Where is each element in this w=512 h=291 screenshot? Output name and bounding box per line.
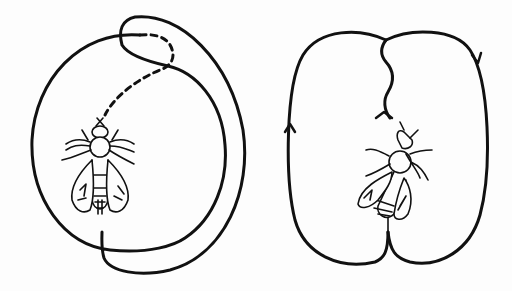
figure-canvas: Round dance: circular path with dashed s…: [0, 0, 512, 291]
round-dance-path: [32, 17, 245, 273]
dance-illustration: [0, 0, 512, 291]
bee-round: [62, 118, 134, 214]
bee-waggle: [358, 122, 432, 232]
waggle-dance-path: [285, 32, 487, 264]
